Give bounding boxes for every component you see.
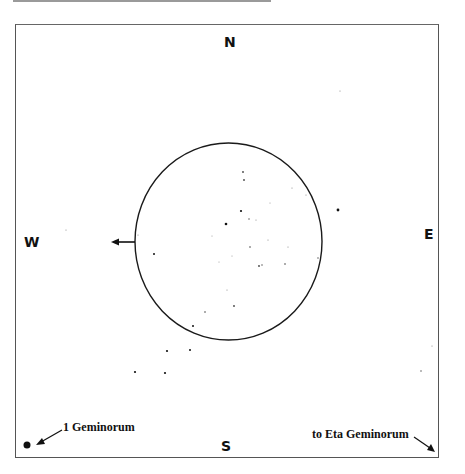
north-label: N [224, 35, 236, 49]
star [226, 289, 227, 290]
star [243, 179, 245, 181]
star [337, 209, 340, 212]
star-field [0, 0, 465, 474]
star [291, 187, 292, 188]
arrow-to-eta-geminorum [414, 437, 435, 452]
star [255, 219, 256, 220]
star [249, 246, 251, 248]
arrow-to-1-geminorum [36, 430, 62, 445]
star [258, 265, 260, 267]
star [212, 236, 213, 237]
west-label: W [24, 235, 39, 249]
star [267, 239, 268, 240]
field-of-view-circle [135, 143, 322, 340]
star [261, 264, 262, 265]
star [204, 311, 206, 313]
star [232, 256, 233, 257]
star [166, 350, 168, 352]
star [164, 372, 166, 374]
label-eta-geminorum: to Eta Geminorum [312, 428, 409, 440]
label-1-geminorum: 1 Geminorum [63, 421, 135, 433]
star [219, 262, 220, 263]
star [242, 171, 244, 173]
west-arrow [111, 239, 135, 246]
star [137, 234, 138, 235]
star [431, 345, 432, 346]
star [284, 263, 286, 265]
star [270, 203, 271, 204]
star [189, 349, 191, 351]
star [240, 210, 242, 212]
star-1-geminorum [24, 442, 31, 449]
star [305, 194, 306, 195]
star [233, 305, 235, 307]
star [287, 246, 288, 247]
star [225, 223, 228, 226]
star [248, 218, 249, 219]
star [192, 325, 194, 327]
star [65, 229, 66, 230]
star [153, 253, 155, 255]
star [317, 257, 318, 258]
star [420, 370, 421, 371]
east-label: E [424, 227, 434, 241]
south-label: S [221, 439, 231, 453]
star [134, 371, 136, 373]
stars [24, 90, 433, 448]
star [339, 90, 340, 91]
